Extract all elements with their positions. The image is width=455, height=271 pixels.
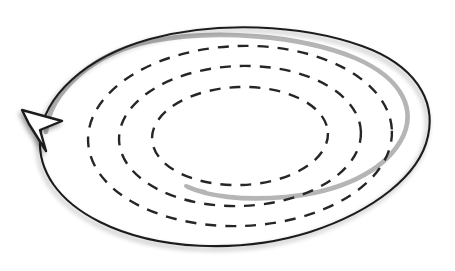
spiral-arrow-diagram: [0, 0, 455, 271]
dashed-ellipse-outer: [85, 41, 395, 231]
dashed-ellipse-inner: [150, 84, 329, 188]
outer-solid-ellipse: [40, 27, 430, 246]
figure-canvas: A hand-drawn style diagram: a large soli…: [0, 0, 455, 271]
